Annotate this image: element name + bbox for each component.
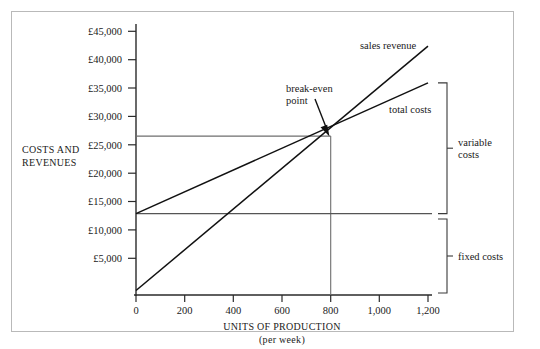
break-even-label-line1: break-even: [286, 83, 333, 94]
y-tick-label: £15,000: [88, 196, 122, 207]
sales-revenue-label: sales revenue: [360, 40, 417, 51]
total-costs-label: total costs: [389, 104, 431, 115]
y-tick-label: £45,000: [88, 26, 122, 37]
sales-revenue-line: [136, 46, 428, 290]
x-tick-label: 1,000: [367, 305, 391, 316]
y-axis-ticks: [128, 31, 136, 258]
x-axis-title: UNITS OF PRODUCTION: [223, 321, 340, 332]
total-costs-line: [136, 83, 428, 214]
y-tick-label: £35,000: [88, 83, 122, 94]
y-tick-label: £25,000: [88, 140, 122, 151]
y-tick-label: £5,000: [93, 253, 122, 264]
x-axis-tick-labels: 0 200 400 600 800 1,000 1,200: [133, 305, 439, 316]
y-tick-label: £30,000: [88, 111, 122, 122]
y-axis-title-line2: REVENUES: [22, 157, 77, 168]
y-tick-label: £40,000: [88, 54, 122, 65]
y-tick-label: £10,000: [88, 225, 122, 236]
variable-costs-bracket: [438, 83, 453, 214]
break-even-chart-svg: £5,000 £10,000 £15,000 £20,000 £25,000 £…: [0, 0, 540, 349]
x-tick-label: 400: [225, 305, 241, 316]
variable-costs-label-line1: variable: [458, 137, 492, 148]
x-tick-label: 1,200: [416, 305, 440, 316]
y-tick-label: £20,000: [88, 168, 122, 179]
x-axis-ticks: [136, 295, 428, 302]
fixed-costs-bracket: [438, 219, 453, 293]
x-axis-title-sub: (per week): [259, 334, 305, 346]
x-tick-label: 800: [323, 305, 339, 316]
break-even-label-line2: point: [286, 95, 308, 106]
fixed-costs-label: fixed costs: [458, 251, 503, 262]
x-tick-label: 0: [133, 305, 138, 316]
x-tick-label: 200: [177, 305, 193, 316]
variable-costs-label-line2: costs: [458, 149, 479, 160]
x-tick-label: 600: [274, 305, 290, 316]
y-axis-title-line1: COSTS AND: [22, 144, 79, 155]
break-even-chart-figure: £5,000 £10,000 £15,000 £20,000 £25,000 £…: [0, 0, 540, 349]
y-axis-tick-labels: £5,000 £10,000 £15,000 £20,000 £25,000 £…: [88, 26, 122, 264]
